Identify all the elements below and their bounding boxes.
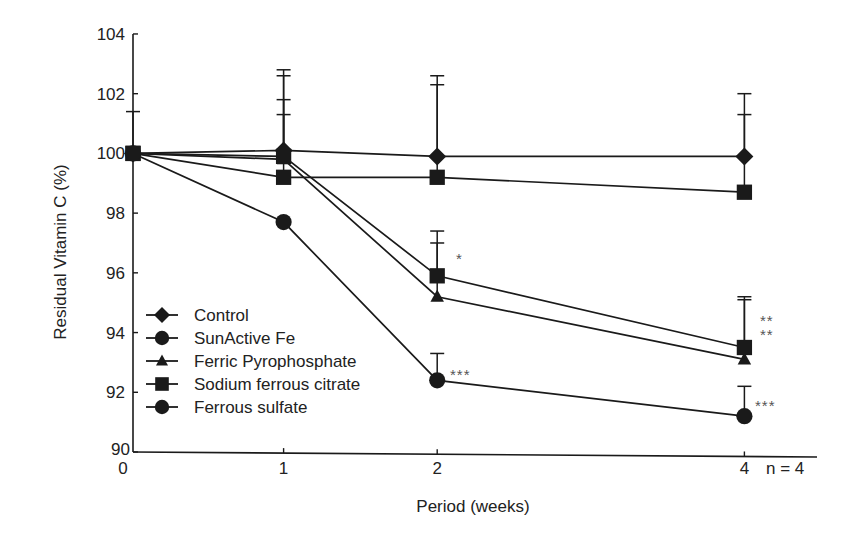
diamond-marker bbox=[428, 147, 446, 165]
legend-item: Ferrous sulfate bbox=[146, 398, 307, 417]
y-tick-label: 94 bbox=[106, 324, 125, 343]
square-marker bbox=[430, 268, 445, 283]
y-tick-label: 90 bbox=[111, 440, 130, 459]
circle-marker bbox=[736, 408, 752, 424]
square-marker bbox=[430, 170, 445, 185]
sample-size-note: n = 4 bbox=[766, 459, 804, 478]
circle-marker bbox=[276, 214, 292, 230]
chart: 90929496981001021040124 *********** Cont… bbox=[0, 0, 861, 547]
significance-marker: ** bbox=[760, 326, 774, 343]
legend-item: Sodium ferrous citrate bbox=[146, 375, 360, 394]
y-tick-label: 98 bbox=[106, 204, 125, 223]
significance-marker: *** bbox=[755, 397, 776, 414]
legend-label: SunActive Fe bbox=[194, 329, 295, 348]
square-marker bbox=[276, 149, 291, 164]
legend: ControlSunActive FeFerric PyrophosphateS… bbox=[146, 306, 360, 417]
circle-marker bbox=[125, 145, 141, 161]
y-tick-label: 92 bbox=[106, 383, 125, 402]
legend-item: SunActive Fe bbox=[146, 329, 295, 348]
triangle-icon bbox=[156, 355, 168, 366]
diamond-icon bbox=[154, 307, 170, 323]
y-tick-label: 104 bbox=[97, 25, 125, 44]
significance-marker: * bbox=[456, 250, 463, 267]
x-tick-label: 1 bbox=[279, 459, 288, 478]
x-tick-label: 4 bbox=[740, 459, 749, 478]
significance-marker: *** bbox=[450, 366, 471, 383]
circle-icon bbox=[155, 331, 169, 345]
diamond-marker bbox=[735, 147, 753, 165]
legend-item: Ferric Pyrophosphate bbox=[146, 352, 357, 371]
y-tick-label: 96 bbox=[106, 264, 125, 283]
x-tick-label: 0 bbox=[118, 459, 127, 478]
legend-label: Sodium ferrous citrate bbox=[194, 375, 360, 394]
legend-item: Control bbox=[146, 306, 249, 325]
line-chart-svg: 90929496981001021040124 *********** Cont… bbox=[0, 0, 861, 547]
x-axis-title: Period (weeks) bbox=[416, 497, 529, 516]
square-marker bbox=[737, 340, 752, 355]
square-marker bbox=[737, 185, 752, 200]
legend-label: Control bbox=[194, 306, 249, 325]
y-tick-label: 100 bbox=[97, 144, 125, 163]
x-tick-label: 2 bbox=[432, 459, 441, 478]
circle-icon bbox=[155, 400, 169, 414]
circle-marker bbox=[429, 372, 445, 388]
y-axis-title: Residual Vitamin C (%) bbox=[51, 164, 70, 339]
square-marker bbox=[276, 170, 291, 185]
legend-label: Ferric Pyrophosphate bbox=[194, 352, 357, 371]
square-icon bbox=[155, 377, 169, 391]
y-tick-label: 102 bbox=[97, 85, 125, 104]
x-axis-line bbox=[133, 452, 817, 457]
triangle-marker bbox=[430, 290, 444, 302]
legend-label: Ferrous sulfate bbox=[194, 398, 307, 417]
